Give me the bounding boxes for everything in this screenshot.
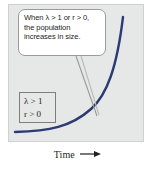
x-axis-label-text: Time bbox=[54, 149, 75, 160]
x-axis-label: Time bbox=[0, 148, 156, 160]
condition-lambda: λ > 1 bbox=[24, 95, 55, 108]
arrow-right-icon bbox=[80, 149, 102, 160]
callout-bubble: When λ > 1 or r > 0, the population incr… bbox=[18, 9, 106, 56]
callout-text: When λ > 1 or r > 0, the population incr… bbox=[24, 13, 101, 42]
condition-r: r > 0 bbox=[24, 108, 55, 121]
condition-box: λ > 1 r > 0 bbox=[19, 92, 56, 123]
exponential-growth-figure: When λ > 1 or r > 0, the population incr… bbox=[0, 0, 156, 170]
